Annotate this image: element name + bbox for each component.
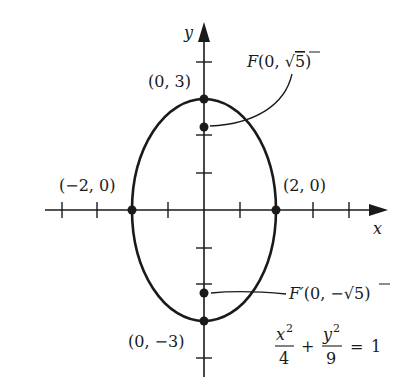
focus-upper-radicand: 5 — [295, 52, 305, 71]
vertex-right-label: (2, 0) — [283, 176, 326, 195]
focus-upper-label: F(0, √5) — [246, 52, 320, 71]
y-axis-arrow-icon — [198, 22, 210, 42]
equation-term1-denominator: 4 — [279, 349, 289, 368]
equation-term2-numerator: y — [322, 325, 333, 344]
vertex-bottom-label: (0, −3) — [128, 332, 184, 351]
ellipse-equation: x 2 4 + y 2 9 = 1 — [275, 322, 381, 368]
x-axis-label: x — [373, 219, 382, 238]
focus-lower-leader-line — [211, 291, 286, 294]
focus-upper-leader-line — [210, 74, 292, 126]
svg-text:F′(0, −√5): F′(0, −√5) — [288, 284, 370, 303]
y-axis-label: y — [183, 23, 194, 42]
focus-lower-name: F′ — [288, 284, 304, 303]
focus-upper-close: ) — [305, 52, 311, 71]
ellipse-diagram-canvas: y x (0, 3) (0, −3) (−2, 0) (2, 0) F(0, √… — [0, 0, 417, 392]
focus-lower-radicand: 5 — [354, 284, 364, 303]
focus-lower-open: (0, − — [304, 284, 344, 303]
vertex-left-point — [128, 206, 137, 215]
vertex-top-label: (0, 3) — [148, 72, 191, 91]
equation-term2-exponent: 2 — [333, 322, 340, 335]
equation-term1-numerator: x — [276, 325, 285, 344]
x-axis — [45, 202, 388, 218]
vertex-top-point — [200, 95, 209, 104]
focus-upper-point — [200, 123, 209, 132]
focus-lower-point — [200, 289, 209, 298]
vertex-right-point — [272, 206, 281, 215]
equation-plus: + — [301, 337, 314, 356]
focus-upper-open: (0, — [258, 52, 285, 71]
equation-term1-exponent: 2 — [286, 322, 293, 335]
focus-upper-name: F — [246, 52, 259, 71]
ellipse-figure: y x (0, 3) (0, −3) (−2, 0) (2, 0) F(0, √… — [0, 0, 417, 392]
vertex-left-label: (−2, 0) — [59, 176, 115, 195]
svg-text:F(0, √5): F(0, √5) — [246, 52, 311, 71]
equation-term2-denominator: 9 — [326, 349, 336, 368]
x-axis-arrow-icon — [369, 204, 388, 216]
focus-lower-close: ) — [364, 284, 370, 303]
equation-rhs: 1 — [371, 337, 381, 356]
focus-lower-label: F′(0, −√5) — [288, 284, 390, 303]
vertex-bottom-point — [200, 317, 209, 326]
equation-equals: = — [350, 337, 363, 356]
